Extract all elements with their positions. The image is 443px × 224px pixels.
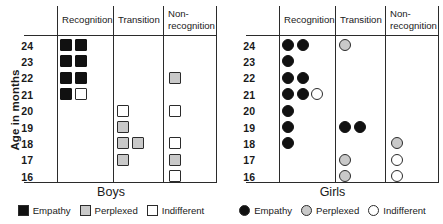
empathy-marker-icon (75, 55, 87, 67)
perplexed-marker-icon (301, 205, 312, 216)
column-header-recognition: Recognition (57, 6, 113, 33)
empathy-marker-icon (60, 39, 72, 51)
column-divider-0 (57, 6, 58, 182)
perplexed-marker-icon (339, 39, 351, 51)
y-tick-24: 24 (13, 41, 33, 51)
empathy-marker-icon (60, 72, 72, 84)
column-header-label: Non- recognition (390, 8, 437, 31)
perplexed-marker-icon (391, 137, 403, 149)
y-tick-23: 23 (235, 57, 255, 67)
legend-label: Perplexed (95, 205, 138, 216)
legend-boys: EmpathyPerplexedIndifferent (0, 205, 222, 216)
perplexed-marker-icon (132, 137, 144, 149)
column-header-label: Non- recognition (168, 8, 215, 31)
column-divider-1 (335, 6, 336, 182)
empathy-marker-icon (297, 88, 309, 100)
empathy-marker-icon (282, 137, 294, 149)
column-divider-2 (163, 6, 164, 182)
y-tick-16: 16 (13, 172, 33, 182)
y-tick-16: 16 (235, 172, 255, 182)
column-header-transition: Transition (335, 6, 385, 33)
legend-label: Perplexed (316, 205, 359, 216)
empathy-marker-icon (282, 72, 294, 84)
y-tick-23: 23 (13, 57, 33, 67)
column-divider-1 (113, 6, 114, 182)
empathy-marker-icon (354, 121, 366, 133)
y-tick-19: 19 (13, 123, 33, 133)
y-tick-18: 18 (13, 139, 33, 149)
empathy-marker-icon (282, 88, 294, 100)
panel-caption-boys: Boys (0, 185, 222, 199)
legend-label: Empathy (33, 205, 71, 216)
perplexed-marker-icon (169, 72, 181, 84)
indifferent-marker-icon (169, 137, 181, 149)
indifferent-marker-icon (75, 88, 87, 100)
column-divider-3 (216, 6, 217, 182)
indifferent-marker-icon (311, 88, 323, 100)
column-header-label: Recognition (284, 14, 335, 26)
indifferent-marker-icon (368, 205, 379, 216)
column-header-recognition: Recognition (279, 6, 335, 33)
axis-line-bottom (24, 182, 217, 183)
empathy-marker-icon (18, 205, 29, 216)
axis-line-bottom (246, 182, 439, 183)
perplexed-marker-icon (169, 154, 181, 166)
legend-item-indifferent: Indifferent (368, 205, 426, 216)
column-header-non-recognition: Non- recognition (163, 6, 216, 33)
y-tick-22: 22 (13, 73, 33, 83)
empathy-marker-icon (282, 105, 294, 117)
perplexed-marker-icon (339, 170, 351, 182)
axis-line-top (24, 35, 217, 36)
empathy-marker-icon (60, 55, 72, 67)
perplexed-marker-icon (80, 205, 91, 216)
indifferent-marker-icon (169, 170, 181, 182)
legend-item-perplexed: Perplexed (301, 205, 359, 216)
column-header-label: Transition (340, 14, 382, 26)
y-tick-17: 17 (13, 155, 33, 165)
column-divider-3 (438, 6, 439, 182)
indifferent-marker-icon (147, 205, 158, 216)
legend-label: Indifferent (383, 205, 426, 216)
perplexed-marker-icon (117, 154, 129, 166)
legend-item-empathy: Empathy (18, 205, 71, 216)
legend-item-indifferent: Indifferent (147, 205, 205, 216)
y-tick-22: 22 (235, 73, 255, 83)
y-tick-24: 24 (235, 41, 255, 51)
column-header-label: Transition (118, 14, 160, 26)
empathy-marker-icon (75, 39, 87, 51)
indifferent-marker-icon (169, 105, 181, 117)
legend-item-empathy: Empathy (239, 205, 292, 216)
y-tick-17: 17 (235, 155, 255, 165)
column-header-label: Recognition (62, 14, 113, 26)
column-header-transition: Transition (113, 6, 163, 33)
y-tick-20: 20 (13, 106, 33, 116)
empathy-marker-icon (60, 88, 72, 100)
y-tick-20: 20 (235, 106, 255, 116)
perplexed-marker-icon (339, 154, 351, 166)
axis-line-top (246, 35, 439, 36)
legend-label: Indifferent (162, 205, 205, 216)
empathy-marker-icon (282, 55, 294, 67)
empathy-marker-icon (297, 72, 309, 84)
legend-item-perplexed: Perplexed (80, 205, 138, 216)
y-tick-18: 18 (235, 139, 255, 149)
panel-caption-girls: Girls (222, 185, 443, 199)
empathy-marker-icon (282, 39, 294, 51)
y-tick-21: 21 (13, 90, 33, 100)
indifferent-marker-icon (391, 170, 403, 182)
y-tick-19: 19 (235, 123, 255, 133)
column-divider-0 (279, 6, 280, 182)
empathy-marker-icon (297, 39, 309, 51)
perplexed-marker-icon (117, 137, 129, 149)
indifferent-marker-icon (117, 105, 129, 117)
y-tick-21: 21 (235, 90, 255, 100)
column-divider-2 (385, 6, 386, 182)
column-header-non-recognition: Non- recognition (385, 6, 438, 33)
empathy-marker-icon (239, 205, 250, 216)
indifferent-marker-icon (391, 154, 403, 166)
legend-girls: EmpathyPerplexedIndifferent (222, 205, 443, 216)
perplexed-marker-icon (117, 121, 129, 133)
empathy-marker-icon (75, 72, 87, 84)
empathy-marker-icon (282, 121, 294, 133)
legend-label: Empathy (254, 205, 292, 216)
